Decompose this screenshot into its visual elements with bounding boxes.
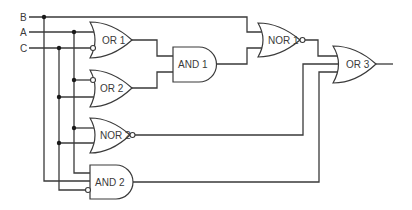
- gate-or1: OR 1: [90, 22, 132, 58]
- inverter-bubble: [130, 133, 135, 138]
- junction-dot: [57, 46, 61, 50]
- inverter-bubble: [91, 46, 96, 51]
- gate-label-or2: OR 2: [100, 83, 124, 94]
- gate-label-and2: AND 2: [95, 177, 125, 188]
- input-label-b: B: [20, 12, 27, 23]
- gate-or2: OR 2: [90, 70, 132, 107]
- gate-label-and1: AND 1: [178, 59, 208, 70]
- input-label-c: C: [20, 43, 27, 54]
- gate-label-or1: OR 1: [102, 35, 126, 46]
- wire-nor1-or3: [305, 40, 338, 56]
- logic-circuit-diagram: B A C OR 1: [0, 0, 412, 210]
- junction-dot: [57, 141, 61, 145]
- wire-b-main: [29, 17, 262, 32]
- inverter-bubble: [91, 78, 96, 83]
- wire-a-vertical: [74, 32, 90, 173]
- wire-c-vertical: [59, 48, 86, 190]
- junction-dot: [42, 15, 46, 19]
- wire-or2-and1: [132, 72, 173, 88]
- junction-dot: [72, 30, 76, 34]
- wire-or1-and1: [132, 40, 173, 56]
- gate-or3: OR 3: [333, 46, 376, 83]
- gate-and1: AND 1: [173, 47, 217, 82]
- gate-label-nor1: NOR 1: [268, 35, 299, 46]
- wire-and1-nor1: [216, 48, 262, 64]
- inverter-bubble: [300, 38, 305, 43]
- junction-dot: [72, 78, 76, 82]
- input-label-a: A: [20, 27, 27, 38]
- gate-nor1: NOR 1: [258, 23, 305, 57]
- gate-label-or3: OR 3: [346, 59, 370, 70]
- wire-nor2-or3: [135, 64, 340, 135]
- wire-and2-or3: [133, 72, 338, 182]
- junction-dot: [57, 95, 61, 99]
- gate-nor2: NOR 2: [90, 118, 135, 153]
- gate-label-nor2: NOR 2: [100, 130, 131, 141]
- input-wires: [29, 17, 262, 190]
- junction-dot: [72, 126, 76, 130]
- gate-and2: AND 2: [86, 165, 134, 199]
- inverter-bubble: [86, 188, 91, 193]
- wire-b-vertical: [44, 17, 90, 181]
